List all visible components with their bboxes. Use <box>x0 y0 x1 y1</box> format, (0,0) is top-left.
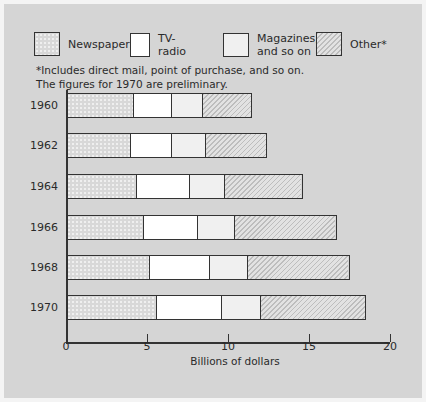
bar-segment <box>67 216 143 239</box>
bar-segment <box>221 296 260 319</box>
bar-segment <box>189 175 224 198</box>
bar-segment <box>67 94 133 117</box>
y-tick-label: 1968 <box>18 261 58 274</box>
bar-segment <box>260 296 365 319</box>
legend-label: Newspapers <box>68 38 135 51</box>
stacked-bar <box>66 174 303 199</box>
legend-label: Magazines, and so on <box>257 32 319 58</box>
bar-segment <box>156 296 222 319</box>
y-tick-label: 1964 <box>18 180 58 193</box>
x-tick-label: 20 <box>375 340 405 353</box>
y-tick-label: 1966 <box>18 221 58 234</box>
preliminary-note: The figures for 1970 are preliminary. <box>36 78 228 90</box>
y-axis-line <box>66 90 68 342</box>
legend-item-newspapers: Newspapers <box>34 32 135 56</box>
bar-segment <box>67 134 130 157</box>
bar-segment <box>67 256 149 279</box>
stacked-bar <box>66 295 366 320</box>
bar-segment <box>171 134 205 157</box>
x-tick-label: 0 <box>51 340 81 353</box>
stacked-bar <box>66 255 350 280</box>
bar-segment <box>143 216 198 239</box>
x-tick-label: 5 <box>132 340 162 353</box>
bar-segment <box>247 256 348 279</box>
y-tick-label: 1970 <box>18 301 58 314</box>
x-tick-label: 10 <box>213 340 243 353</box>
legend-label: TV-radio <box>158 32 192 58</box>
stacked-bar <box>66 133 267 158</box>
y-tick-label: 1960 <box>18 99 58 112</box>
stacked-bar <box>66 215 337 240</box>
tv-radio-swatch-icon <box>130 33 150 57</box>
legend-item-tv-radio: TV-radio <box>130 32 192 58</box>
bar-segment <box>67 296 156 319</box>
footnote: *Includes direct mail, point of purchase… <box>36 64 304 76</box>
bar-segment <box>209 256 248 279</box>
bar-segment <box>234 216 335 239</box>
stacked-bar <box>66 93 252 118</box>
bar-segment <box>224 175 301 198</box>
legend-label: Other* <box>350 38 387 51</box>
newspapers-swatch-icon <box>34 32 60 56</box>
bar-segment <box>149 256 209 279</box>
x-axis-label: Billions of dollars <box>180 355 290 367</box>
y-tick-label: 1962 <box>18 139 58 152</box>
bar-segment <box>197 216 234 239</box>
bar-segment <box>202 94 252 117</box>
bar-segment <box>67 175 136 198</box>
legend-item-magazines: Magazines, and so on <box>223 32 319 58</box>
magazines-swatch-icon <box>223 33 249 57</box>
x-tick-label: 15 <box>294 340 324 353</box>
bar-segment <box>130 134 172 157</box>
bar-segment <box>136 175 189 198</box>
other-swatch-icon <box>316 32 342 56</box>
bar-segment <box>171 94 201 117</box>
legend-item-other: Other* <box>316 32 387 56</box>
bar-segment <box>205 134 266 157</box>
bar-segment <box>133 94 171 117</box>
